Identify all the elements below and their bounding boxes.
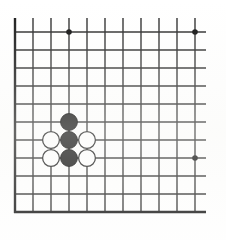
star-point-top-right — [192, 29, 198, 35]
star-point-top-left — [66, 29, 72, 35]
white-stone-right-lower[interactable] — [79, 150, 96, 167]
white-stone-right-upper[interactable] — [79, 132, 96, 149]
white-stone-left-lower[interactable] — [43, 150, 60, 167]
white-stone-left-upper[interactable] — [43, 132, 60, 149]
go-board-canvas[interactable] — [0, 0, 226, 240]
black-stone-upper[interactable] — [61, 114, 78, 131]
go-board-diagram — [0, 0, 226, 240]
black-stone-center[interactable] — [61, 132, 78, 149]
star-point-right — [192, 155, 198, 161]
black-stone-lower[interactable] — [61, 150, 78, 167]
board-background — [0, 0, 226, 240]
